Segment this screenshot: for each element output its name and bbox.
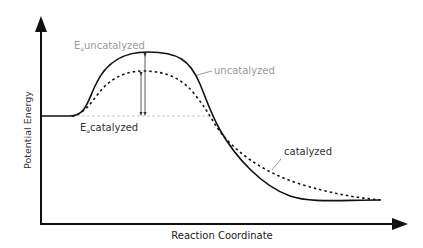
ea-uncatalyzed-label: Eauncatalyzed (74, 40, 145, 52)
uncatalyzed-leader-line (197, 71, 212, 75)
y-axis-label: Potential Energy (22, 91, 33, 169)
catalyzed-leader-line (272, 159, 281, 170)
energy-diagram: Eauncatalyzed Eacatalyzed uncatalyzed ca… (0, 0, 423, 248)
catalyzed-curve (72, 71, 382, 200)
x-axis-label: Reaction Coordinate (171, 230, 272, 241)
catalyzed-curve-label: catalyzed (284, 146, 332, 157)
uncatalyzed-curve-label: uncatalyzed (214, 65, 275, 76)
ea-catalyzed-label: Eacatalyzed (80, 122, 138, 134)
